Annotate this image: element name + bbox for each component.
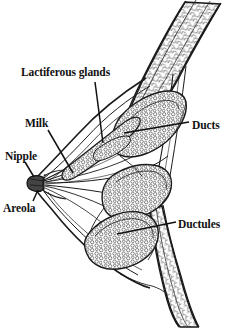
label-nipple: Nipple xyxy=(5,150,37,162)
breast-deep-lower-curve xyxy=(120,274,164,292)
label-areola: Areola xyxy=(3,202,35,214)
nipple xyxy=(27,176,44,192)
label-ducts: Ducts xyxy=(192,119,220,131)
label-ductules: Ductules xyxy=(178,218,220,230)
leader-milk xyxy=(48,130,73,173)
chest-wall-group xyxy=(124,0,221,327)
label-lactiferous-glands: Lactiferous glands xyxy=(21,66,110,78)
label-milk: Milk xyxy=(25,117,48,129)
anatomy-illustration xyxy=(0,0,234,328)
leader-nipple xyxy=(25,162,34,177)
breast-anatomy-figure: Lactiferous glands Milk Nipple Areola Du… xyxy=(0,0,234,328)
leader-lactiferous-glands xyxy=(95,82,103,143)
